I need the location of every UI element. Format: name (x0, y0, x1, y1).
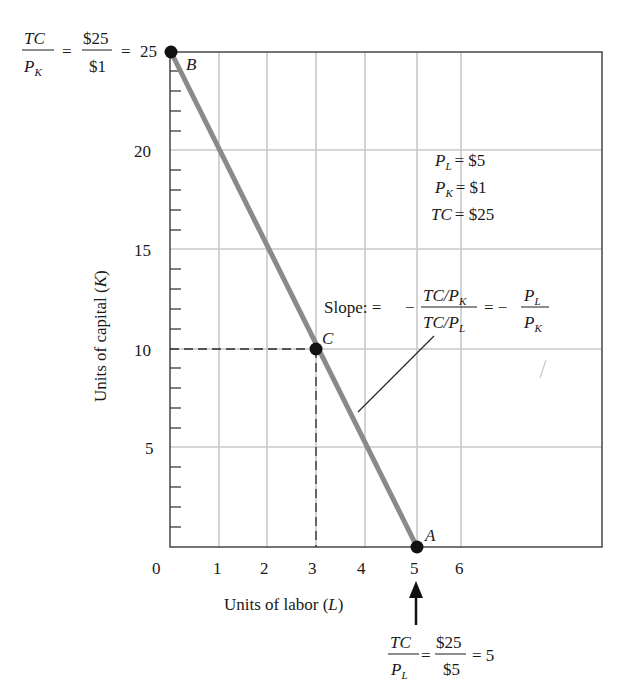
svg-text:$1: $1 (89, 57, 106, 76)
formula-tc-over-pk: TC PK = $25 $1 (22, 29, 112, 78)
y-tick-15: 15 (134, 241, 151, 260)
svg-text:=: = (421, 646, 431, 665)
x-tick-5: 5 (410, 559, 419, 578)
slope-formula: Slope: = − TC/PK TC/PL = − PL PK (324, 286, 549, 334)
x-tick-3: 3 (308, 559, 317, 578)
y-axis-title: Units of capital (K) (91, 270, 110, 402)
y-tick-5: 5 (145, 439, 154, 458)
svg-text:= 5: = 5 (472, 646, 494, 665)
x-tick-1: 1 (213, 559, 222, 578)
point-c-label: C (322, 329, 334, 348)
svg-text:TC: TC (24, 29, 45, 48)
point-a-label: A (424, 526, 436, 545)
svg-text:TC/PL: TC/PL (423, 313, 465, 334)
formula-tc-over-pl: TC PL = $25 $5 = 5 (388, 633, 494, 681)
x-tick-0: 0 (152, 559, 161, 578)
svg-text:=: = (62, 42, 72, 61)
svg-text:$25: $25 (83, 29, 109, 48)
param-tc: TC= $25 (431, 205, 494, 224)
param-pk: PK= $1 (434, 178, 487, 199)
x-tick-6: 6 (455, 559, 464, 578)
y-tick-20: 20 (134, 142, 151, 161)
y-tick-10: 10 (134, 341, 151, 360)
svg-text:PL: PL (523, 286, 541, 307)
point-b-marker (165, 46, 178, 59)
svg-text:PK: PK (23, 57, 42, 78)
svg-text:−: − (405, 298, 415, 317)
svg-text:PL: PL (390, 660, 408, 681)
svg-text:$25: $25 (436, 633, 462, 652)
y-tick-25: 25 (140, 42, 157, 61)
y-axis-ticks (170, 71, 181, 527)
point-c-marker (310, 343, 323, 356)
svg-text:Slope: =: Slope: = (324, 298, 381, 317)
x-tick-4: 4 (357, 559, 366, 578)
svg-text:= −: = − (484, 298, 507, 317)
param-pl: PL= $5 (434, 151, 485, 172)
svg-text:$5: $5 (443, 660, 460, 679)
budget-constraint-chart: B C A 25 20 15 10 5 0 1 2 3 4 5 6 Units … (0, 0, 625, 693)
svg-text:TC: TC (390, 633, 411, 652)
stray-mark (540, 360, 546, 378)
svg-text:PK: PK (523, 313, 542, 334)
formula-top-equals: = (121, 42, 131, 61)
slope-pointer-line (358, 336, 434, 412)
x-axis-title: Units of labor (L) (224, 595, 343, 614)
point-a-marker (411, 541, 424, 554)
point-b-label: B (186, 55, 197, 74)
arrow-up-icon (409, 581, 423, 625)
x-tick-2: 2 (260, 559, 269, 578)
parameters-block: PL= $5 PK= $1 TC= $25 (431, 151, 494, 224)
